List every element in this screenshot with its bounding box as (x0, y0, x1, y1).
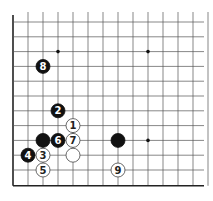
white-stone-5: 5 (36, 163, 50, 177)
white-stone (66, 148, 80, 162)
star-point-icon (146, 139, 150, 143)
black-stone-6: 6 (51, 133, 65, 147)
move-number: 8 (40, 61, 47, 72)
black-stone-2: 2 (51, 104, 65, 118)
white-stone-3: 3 (36, 148, 50, 162)
white-stone-7: 7 (66, 133, 80, 147)
move-number: 9 (115, 165, 122, 176)
white-stone-1: 1 (66, 119, 80, 133)
star-point-icon (146, 50, 150, 54)
move-number: 1 (70, 120, 77, 131)
go-board-diagram: 821674359 (0, 0, 213, 201)
move-number: 3 (40, 150, 47, 161)
black-stone (36, 133, 50, 147)
move-number: 7 (70, 135, 77, 146)
stone-icon (36, 133, 50, 147)
stone-icon (66, 148, 80, 162)
move-number: 6 (55, 135, 62, 146)
black-stone-4: 4 (21, 148, 35, 162)
move-number: 4 (25, 150, 32, 161)
black-stone (111, 133, 125, 147)
move-number: 2 (55, 105, 62, 116)
move-number: 5 (40, 165, 47, 176)
stone-icon (111, 133, 125, 147)
star-point-icon (56, 50, 60, 54)
white-stone-9: 9 (111, 163, 125, 177)
black-stone-8: 8 (36, 59, 50, 73)
